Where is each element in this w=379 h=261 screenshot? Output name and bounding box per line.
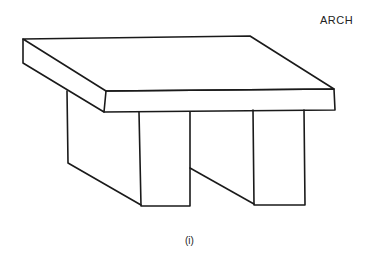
slab bbox=[23, 36, 335, 112]
figure-title: ARCH bbox=[320, 14, 353, 26]
arch-figure: ARCH (i) bbox=[0, 0, 379, 261]
arch-drawing bbox=[0, 0, 379, 261]
figure-caption: (i) bbox=[185, 235, 194, 246]
right-pillar bbox=[190, 110, 305, 205]
left-pillar bbox=[67, 91, 190, 206]
